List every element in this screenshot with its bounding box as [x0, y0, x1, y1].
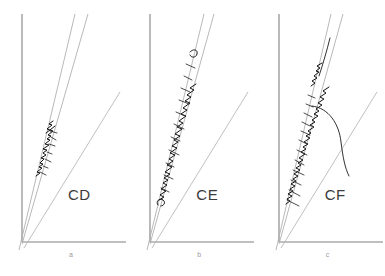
panel-code-ce: CE	[196, 186, 218, 203]
sub-label-a: a	[69, 251, 73, 258]
panel-cd: CD a	[0, 0, 128, 276]
guide-line-upper-envelope	[147, 14, 204, 250]
three-panel-figure: CD a CE b	[0, 0, 385, 276]
sub-label-b: b	[197, 251, 201, 258]
trace-ce	[159, 84, 196, 200]
panel-code-cf: CF	[325, 186, 346, 203]
trace-cf-top-cluster	[311, 63, 322, 86]
trace-cd	[36, 126, 55, 176]
sub-label-c: c	[326, 251, 330, 258]
guide-line-shallow-reference	[281, 92, 377, 248]
guide-line-lower-envelope	[22, 14, 88, 244]
panel-ce-plot	[128, 0, 256, 276]
panel-cf: CF c	[257, 0, 385, 276]
panel-code-cd: CD	[68, 186, 91, 203]
panel-cf-plot	[257, 0, 385, 276]
panel-cd-plot	[0, 0, 128, 276]
panel-ce: CE b	[128, 0, 256, 276]
